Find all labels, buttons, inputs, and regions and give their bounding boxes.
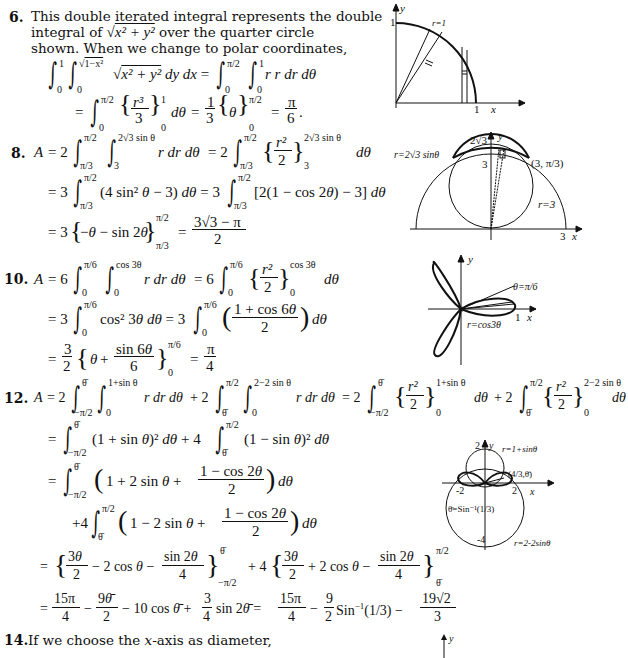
tick-label: -4	[477, 534, 485, 545]
cardioid-intersection-figure: 2 y r=1+sinθ (4/3,θ̄) -2 2 x θ̄=Sin⁻¹(1/…	[440, 440, 590, 550]
problem-8: 8. A= 2 ∫π/2π/3 ∫2√3 sin θ3 r dr dθ= 2 ∫…	[0, 130, 628, 250]
curve-label: r=1+sinθ	[502, 444, 538, 454]
axis-label-y: y	[497, 130, 503, 142]
tick-label: 1	[515, 311, 521, 323]
intro-line: If we choose the x-axis as diameter,	[28, 632, 272, 648]
axis-label-y: y	[448, 633, 454, 644]
tick-label: 2√3	[470, 134, 488, 146]
intro-line: This double iterated integral represents…	[31, 8, 382, 24]
problem-12: 12. A= 2 ∫θ̄−π/2 ∫1+sin θ0 r dr dθ+ 2 ∫π…	[0, 375, 628, 630]
problem-number: 14.	[4, 632, 28, 648]
problem-10: 10. A= 6 ∫π/60 ∫cos 3θ0 r dr dθ= 6 ∫π/60…	[0, 255, 628, 375]
problem-number: 10.	[4, 271, 28, 287]
tick-label: 1	[390, 16, 396, 28]
axis-label-y: y	[467, 255, 473, 265]
angle-label: θ̄=Sin⁻¹(1/3)	[448, 504, 494, 514]
problem-number: 8.	[11, 145, 26, 161]
point-label: (4/3,θ̄)	[508, 469, 532, 479]
point-label: (3, π/3)	[531, 157, 564, 170]
curve-label: r=2√3 sinθ	[394, 149, 439, 160]
quarter-circle-figure: y r=1 1 1 x	[390, 0, 530, 115]
curve-label: r=2-2sinθ	[514, 538, 551, 548]
tick-label: 1	[474, 103, 480, 115]
intro-line: shown. When we change to polar coordinat…	[31, 40, 347, 56]
axis-label-y: y	[399, 2, 405, 14]
curve-label: r=cos3θ	[467, 319, 501, 330]
axis-label-y: y	[488, 440, 494, 451]
intro-line: integral of √x² + y² over the quarter ci…	[31, 24, 314, 40]
problem-number: 6.	[9, 9, 24, 25]
curve-label: r=3	[538, 198, 556, 210]
tick-label: 3	[482, 158, 488, 170]
curve-label: r=1	[432, 18, 446, 28]
problem-6: 6. This double iterated integral represe…	[0, 0, 628, 130]
problem-14: 14. If we choose the x-axis as diameter,…	[0, 630, 628, 658]
partial-figure: y	[440, 630, 480, 658]
tick-label: 3	[560, 230, 566, 242]
circle-intersection-figure: 2√3 y r=2√3 sinθ 3 (3, π/3) r=3 3 x	[390, 130, 590, 242]
problem-number: 12.	[4, 390, 28, 406]
axis-label-x: x	[571, 230, 577, 242]
tick-label: 2	[475, 440, 480, 451]
three-leaf-rose-figure: y θ=π/6 1 x r=cos3θ	[400, 255, 540, 365]
tick-label: -2	[456, 485, 464, 496]
tick-label: 2	[512, 485, 517, 496]
axis-label-x: x	[490, 103, 496, 115]
axis-label-x: x	[526, 311, 532, 323]
axis-label-x: x	[529, 486, 535, 497]
angle-label: θ=π/6	[513, 281, 537, 292]
